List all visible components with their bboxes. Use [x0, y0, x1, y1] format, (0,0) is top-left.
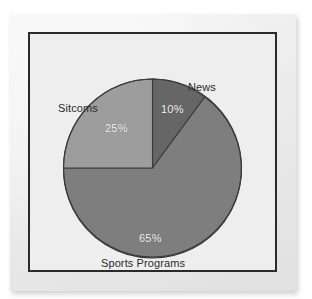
scanned-paper-sheet: Sitcoms News Sports Programs 25% 10% 65%: [10, 14, 296, 291]
pie-value-news: 10%: [161, 103, 184, 116]
pie-chart: Sitcoms News Sports Programs 25% 10% 65%: [30, 34, 275, 270]
chart-frame-border: Sitcoms News Sports Programs 25% 10% 65%: [28, 32, 277, 272]
pie-label-sports-programs: Sports Programs: [101, 257, 185, 270]
pie-label-sitcoms: Sitcoms: [58, 102, 98, 115]
pie-value-sports-programs: 65%: [139, 232, 162, 245]
pie-value-sitcoms: 25%: [105, 122, 128, 135]
screenshot-canvas: Sitcoms News Sports Programs 25% 10% 65%: [0, 0, 312, 299]
pie-label-news: News: [188, 81, 216, 94]
